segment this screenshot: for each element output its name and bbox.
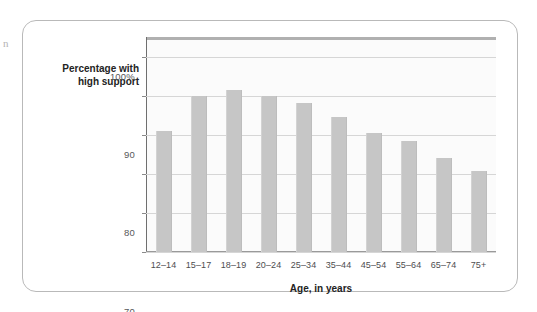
bar-group: 75+ [461,37,496,252]
chart-card: Percentage with high support 50607080901… [22,20,518,292]
x-axis-tick-label: 20–24 [256,260,282,270]
bar [401,141,417,252]
bar-group: 18–19 [216,37,251,252]
bar-group: 25–34 [286,37,321,252]
bar [261,96,277,252]
gridline [146,252,496,253]
page-root: n Percentage with high support 506070809… [0,0,537,312]
x-axis-tick-label: 35–44 [326,260,352,270]
y-axis-tick-label: 100% [110,71,135,82]
page-edge-artifact: n [3,38,10,48]
x-axis-tick-label: 55–64 [396,260,422,270]
x-axis-title: Age, in years [146,283,496,294]
x-axis-tick-label: 12–14 [151,260,177,270]
x-axis-tick-label: 25–34 [291,260,317,270]
y-axis-tick-label: 90 [124,149,135,160]
bar [436,158,452,252]
bar [296,103,312,252]
x-axis-tick-label: 65–74 [431,260,457,270]
bar-group: 35–44 [321,37,356,252]
bar [471,171,487,252]
bar [331,117,347,252]
bar [366,133,382,252]
x-axis-tick-label: 18–19 [221,260,247,270]
x-axis-tick-label: 45–54 [361,260,387,270]
bar-group: 65–74 [426,37,461,252]
bar-group: 15–17 [181,37,216,252]
y-axis-tick-label: 80 [124,227,135,238]
x-axis-tick-label: 15–17 [186,260,212,270]
bars-group: 12–1415–1718–1920–2425–3435–4445–5455–64… [146,37,496,252]
bar-group: 12–14 [146,37,181,252]
bar [191,96,207,252]
bar-group: 45–54 [356,37,391,252]
bar [226,90,242,252]
plot-area: 5060708090100% 12–1415–1718–1920–2425–34… [146,37,496,252]
bar-group: 20–24 [251,37,286,252]
x-axis-tick-label: 75+ [471,260,487,270]
bar-group: 55–64 [391,37,426,252]
bar [156,131,172,252]
y-axis-tick-label: 70 [124,305,135,312]
y-axis-tick: 50 [142,252,146,253]
